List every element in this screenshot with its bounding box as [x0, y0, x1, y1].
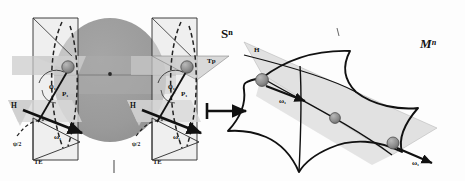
sphere-diagram: φ₁ P₁ H ω₁ ψ/2 TE φ₁ P₁ H — [8, 18, 229, 173]
node-upper-left — [256, 74, 269, 87]
node-p1-1 — [62, 61, 74, 73]
label-h-1: H — [11, 101, 17, 110]
label-h-2: H — [130, 101, 136, 110]
label-omega-upper: ω₁ — [279, 97, 286, 105]
figure-root: φ₁ P₁ H ω₁ ψ/2 TE φ₁ P₁ H — [0, 0, 465, 181]
label-phi-1: φ₁ — [49, 82, 56, 91]
manifold-tick — [337, 28, 339, 36]
label-tp-2: Tp — [207, 57, 216, 65]
sphere-center-point — [108, 72, 112, 76]
map-arrow — [207, 103, 246, 119]
label-psi-1: ψ/2 — [13, 141, 21, 147]
label-te-2: TE — [153, 158, 162, 165]
label-omega-1: ω₁ — [54, 133, 61, 141]
label-p1-1: P₁ — [62, 90, 68, 98]
label-sphere-space: Sⁿ — [221, 26, 233, 41]
label-te-1: TE — [34, 158, 43, 165]
node-p1-2 — [181, 61, 193, 73]
manifold-diagram: H ω₁ ω₁ — [228, 28, 437, 172]
figure-canvas: φ₁ P₁ H ω₁ ψ/2 TE φ₁ P₁ H — [0, 0, 465, 181]
label-phi-2: φ₁ — [168, 82, 175, 91]
label-h-manifold: H — [254, 46, 260, 54]
label-omega-lower: ω₁ — [412, 159, 419, 167]
frame-copy-1: φ₁ P₁ H ω₁ ψ/2 TE — [8, 18, 86, 165]
label-psi-2: ψ/2 — [132, 141, 140, 147]
label-p1-2: P₁ — [181, 90, 187, 98]
node-center — [330, 113, 341, 124]
node-lower-right — [387, 137, 399, 149]
label-omega-2: ω₁ — [173, 133, 180, 141]
label-manifold-space: Mⁿ — [419, 36, 437, 51]
